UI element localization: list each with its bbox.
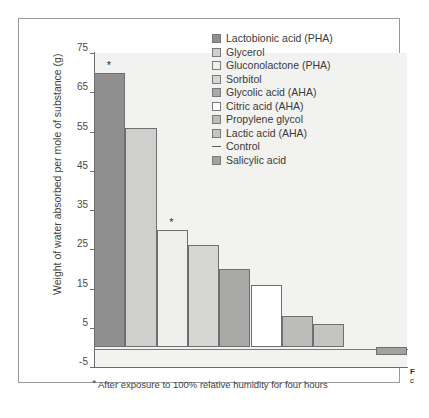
legend-item: Control [212,140,333,154]
y-tick-label: 55 [66,127,88,137]
legend-item-label: Glycerol [226,47,265,58]
y-tick-value: 75 [66,43,88,53]
legend-item-label: Sorbitol [226,74,262,85]
legend-item: Citric acid (AHA) [212,100,333,114]
bar [376,347,407,355]
footnote-star-icon: * [92,377,96,388]
legend-item-label: Salicylic acid [226,155,286,166]
legend-item: Propylene glycol [212,113,333,127]
y-axis-title: Weight of water absorbed per mole of sub… [51,55,63,295]
caption-line-2: c [410,376,429,385]
y-tick-mark [90,367,95,368]
legend-item: Glycolic acid (AHA) [212,86,333,100]
y-tick-value: 45 [66,161,88,171]
legend-item-label: Lactic acid (AHA) [226,128,307,139]
y-tick-label: 35 [66,205,88,215]
legend-item: Gluconolactone (PHA) [212,59,333,73]
chart-legend: Lactobionic acid (PHA)GlycerolGluconolac… [212,32,333,167]
y-tick-value: 25 [66,239,88,249]
y-tick-mark [90,53,95,54]
bar [282,316,313,347]
y-tick-label: 65 [66,87,88,97]
y-tick-label: 75 [66,48,88,58]
legend-item-label: Gluconolactone (PHA) [226,60,330,71]
footnote-text: After exposure to 100% relative humidity… [98,379,328,390]
y-tick-value: 65 [66,82,88,92]
y-tick-value: 55 [66,122,88,132]
legend-item-label: Propylene glycol [226,114,303,125]
y-tick-label: 15 [66,284,88,294]
legend-item: Lactobionic acid (PHA) [212,32,333,46]
caption-line-1: F [410,367,429,376]
legend-item-label: Control [226,141,260,152]
x-axis-line [94,367,408,368]
asterisk-marker: * [107,60,111,71]
legend-swatch-icon [212,88,221,97]
legend-dash-icon [212,142,221,151]
legend-item-label: Citric acid (AHA) [226,101,304,112]
asterisk-marker: * [169,217,173,228]
legend-swatch-icon [212,115,221,124]
legend-swatch-icon [212,34,221,43]
y-tick-value: 15 [66,279,88,289]
bar [125,128,156,348]
y-tick-value: -5 [66,357,88,367]
y-tick-label: 25 [66,244,88,254]
legend-item: Lactic acid (AHA) [212,127,333,141]
bar [157,230,188,348]
legend-swatch-icon [212,129,221,138]
zero-baseline [94,349,408,350]
bar [219,269,250,348]
legend-swatch-icon [212,48,221,57]
legend-item: Salicylic acid [212,154,333,168]
legend-swatch-icon [212,61,221,70]
bar [313,324,344,348]
legend-swatch-icon [212,75,221,84]
y-tick-value: 35 [66,200,88,210]
legend-item: Glycerol [212,46,333,60]
y-tick-value: 5 [66,318,88,328]
legend-swatch-icon [212,102,221,111]
bar [251,285,282,348]
legend-swatch-icon [212,156,221,165]
legend-item: Sorbitol [212,73,333,87]
bar [94,73,125,348]
y-tick-label: -5 [66,362,88,372]
y-tick-label: 45 [66,166,88,176]
y-tick-label: 5 [66,323,88,333]
bar [188,245,219,347]
legend-item-label: Lactobionic acid (PHA) [226,33,333,44]
footnote: *After exposure to 100% relative humidit… [19,377,401,390]
legend-item-label: Glycolic acid (AHA) [226,87,316,98]
figure-caption-cropped: F c [410,367,429,385]
figure-frame: 756555453525155-5 Weight of water absorb… [18,18,400,383]
